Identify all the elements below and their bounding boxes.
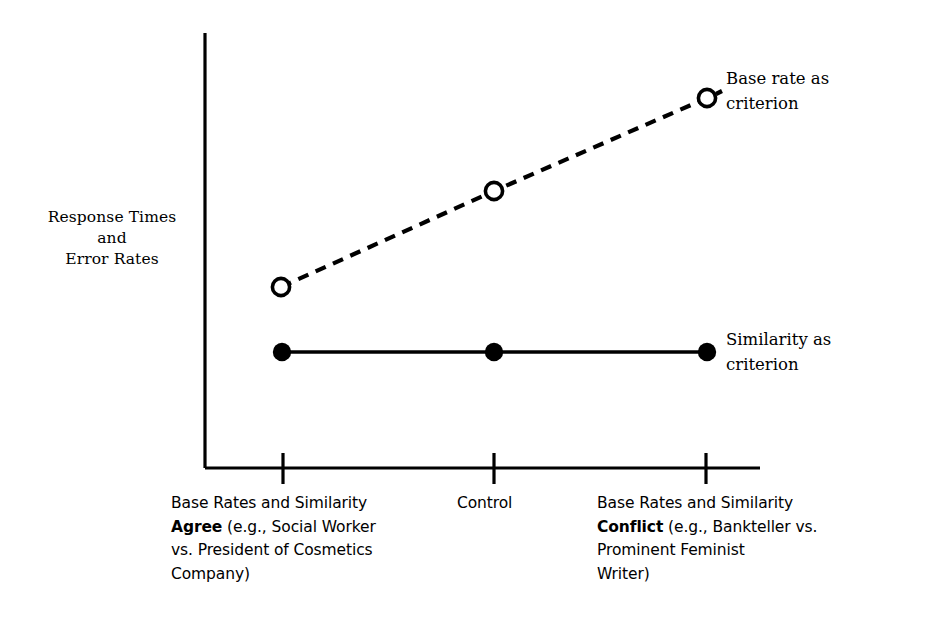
x-axis-category-0-line4: Company) (171, 565, 250, 583)
x-axis-category-1: Control (457, 492, 577, 516)
series-base-rate-point-2 (698, 89, 715, 106)
x-axis-category-2-line4: Writer) (597, 565, 650, 583)
series-similarity-point-1 (485, 343, 503, 361)
x-axis-category-0-line1: Base Rates and Similarity (171, 494, 367, 512)
series-base-rate-leader (716, 91, 722, 94)
x-axis-category-0: Base Rates and Similarity Agree (e.g., S… (171, 492, 439, 586)
x-axis-category-2: Base Rates and Similarity Conflict (e.g.… (597, 492, 887, 586)
x-axis-category-2-line3: Prominent Feminist (597, 541, 745, 559)
series-label-similarity: Similarity as criterion (726, 327, 831, 377)
series-base-rate-point-1 (485, 182, 502, 199)
series-similarity-point-0 (273, 343, 291, 361)
series-label-base-rate: Base rate as criterion (726, 66, 829, 116)
x-axis-category-1-line1: Control (457, 494, 512, 512)
x-axis-category-2-line1: Base Rates and Similarity (597, 494, 793, 512)
series-base-rate-point-0 (272, 278, 289, 295)
x-axis-category-0-line2: (e.g., Social Worker (222, 518, 375, 536)
chart-figure: Response Times and Error Rates Base rate… (0, 0, 929, 629)
x-axis-category-0-line3: vs. President of Cosmetics (171, 541, 373, 559)
x-axis-category-0-keyword: Agree (171, 518, 222, 536)
x-axis-category-2-line2: (e.g., Bankteller vs. (663, 518, 817, 536)
series-similarity-point-2 (698, 343, 716, 361)
x-axis-category-2-keyword: Conflict (597, 518, 663, 536)
